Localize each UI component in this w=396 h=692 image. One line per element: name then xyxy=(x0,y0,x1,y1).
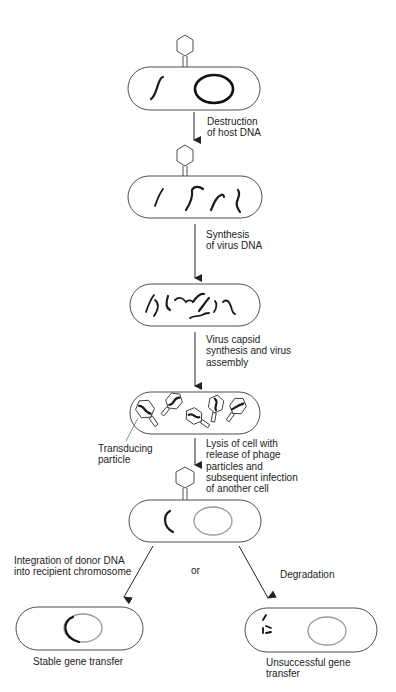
outcome-unsuccessful-transfer xyxy=(245,608,377,652)
step-label-synthesis: Synthesis of virus DNA xyxy=(206,229,262,252)
transduction-diagram: Destruction of host DNA Synthesis of vir… xyxy=(0,0,396,692)
branch-label-degradation: Degradation xyxy=(280,569,334,580)
stage-3-virus-dna-synthesis xyxy=(130,284,260,326)
phage-icon xyxy=(176,467,194,500)
phage-icon xyxy=(177,35,193,67)
outcome-stable-transfer xyxy=(16,607,143,650)
stage-2-host-dna-destroyed xyxy=(128,145,262,218)
step-label-assembly: Virus capsid synthesis and virus assembl… xyxy=(206,334,291,368)
callout-transducing-particle: Transducing particle xyxy=(98,443,153,466)
recipient-cell xyxy=(129,500,261,542)
outcome-label-stable: Stable gene transfer xyxy=(33,656,123,667)
host-cell xyxy=(128,176,262,218)
diagram-canvas xyxy=(0,0,396,692)
phage-icon xyxy=(177,145,193,176)
arrow-degradation xyxy=(239,546,268,598)
step-label-destruction: Destruction of host DNA xyxy=(207,116,261,139)
branch-label-or: or xyxy=(191,565,200,576)
recipient-cell xyxy=(16,607,143,650)
stage-4-virus-assembly xyxy=(126,390,260,441)
outcome-label-unsuccessful: Unsuccessful gene transfer xyxy=(266,657,351,680)
branch-label-integration: Integration of donor DNA into recipient … xyxy=(14,555,131,578)
step-label-lysis: Lysis of cell with release of phage part… xyxy=(206,438,298,494)
recipient-cell xyxy=(245,608,377,652)
stage-1-infection xyxy=(128,35,260,110)
